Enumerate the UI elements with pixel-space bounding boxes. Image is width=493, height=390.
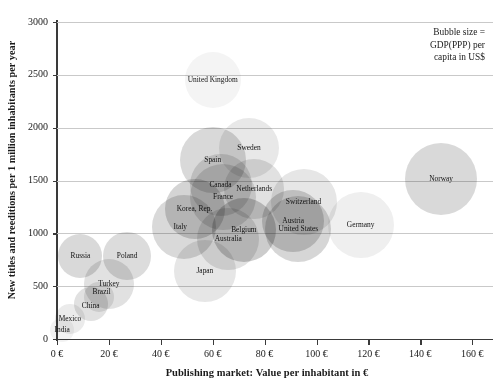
legend-line-2: GDP(PPP) per <box>381 39 485 52</box>
x-tick-label: 60 € <box>188 348 238 359</box>
x-tick-label: 100 € <box>292 348 342 359</box>
y-tick-label: 1000 <box>6 228 48 238</box>
x-tick-label: 80 € <box>240 348 290 359</box>
x-tick-label: 0 € <box>32 348 82 359</box>
x-axis-title: Publishing market: Value per inhabitant … <box>57 367 477 378</box>
legend-line-3: capita in US$ <box>381 51 485 64</box>
x-tick-label: 20 € <box>84 348 134 359</box>
x-tick-label: 120 € <box>343 348 393 359</box>
size-legend: Bubble size = GDP(PPP) per capita in US$ <box>381 26 485 64</box>
gridline <box>57 22 493 23</box>
x-axis-line <box>56 339 493 340</box>
y-tick-mark <box>53 22 57 23</box>
x-tick-mark <box>109 340 110 345</box>
x-tick-mark <box>368 340 369 345</box>
legend-line-1: Bubble size = <box>381 26 485 39</box>
bubble[interactable] <box>405 143 477 215</box>
x-tick-mark <box>472 340 473 345</box>
y-tick-label: 500 <box>6 281 48 291</box>
x-tick-label: 140 € <box>395 348 445 359</box>
y-tick-mark <box>53 233 57 234</box>
y-tick-mark <box>53 286 57 287</box>
bubble[interactable] <box>271 169 337 235</box>
plot-area: IndiaMexicoChinaBrazilRussiaTurkeyPoland… <box>57 22 493 339</box>
x-tick-mark <box>317 340 318 345</box>
y-tick-mark <box>53 75 57 76</box>
bubble[interactable] <box>103 232 151 280</box>
bubble[interactable] <box>185 52 241 108</box>
y-tick-mark <box>53 128 57 129</box>
gridline <box>57 75 493 76</box>
y-tick-label: 2500 <box>6 69 48 79</box>
x-tick-mark <box>213 340 214 345</box>
x-tick-mark <box>420 340 421 345</box>
x-tick-mark <box>161 340 162 345</box>
y-tick-label: 2000 <box>6 122 48 132</box>
y-tick-mark <box>53 181 57 182</box>
x-tick-mark <box>57 340 58 345</box>
y-tick-label: 3000 <box>6 17 48 27</box>
y-tick-label: 1500 <box>6 175 48 185</box>
x-tick-label: 40 € <box>136 348 186 359</box>
x-tick-mark <box>265 340 266 345</box>
gridline <box>57 128 493 129</box>
bubble[interactable] <box>328 192 394 258</box>
bubble-chart: New titles and reeditions per 1 million … <box>0 0 493 390</box>
y-tick-label: 0 <box>6 334 48 344</box>
x-tick-label: 160 € <box>447 348 493 359</box>
